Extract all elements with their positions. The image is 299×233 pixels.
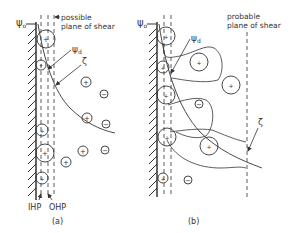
svg-text:+: + — [160, 64, 165, 71]
panel-a: ψo possible plane of shear ψd ζ + + + + … — [16, 13, 116, 226]
shear-plane-label-b-2: plane of shear — [227, 21, 282, 30]
shear-plane-label-a-2: plane of shear — [61, 22, 116, 31]
svg-text:−: − — [101, 91, 107, 99]
svg-text:+: + — [43, 36, 49, 44]
caption-a: (a) — [52, 217, 63, 226]
zeta-label-b: ζ — [258, 117, 263, 127]
panel-b: ψo probable plane of shear ψd ζ + + + + … — [137, 12, 282, 226]
svg-text:−: − — [103, 121, 109, 129]
double-layer-diagram: ψo possible plane of shear ψd ζ + + + + … — [0, 0, 299, 233]
psi-0-label-a: ψo — [16, 17, 27, 29]
svg-text:+: + — [164, 134, 169, 141]
svg-text:−: − — [185, 177, 191, 185]
ohp-label: OHP — [49, 203, 66, 212]
potential-curve-a — [38, 24, 115, 133]
ions-b: + + + + + + + − + − — [157, 27, 240, 185]
shear-plane-label-a: possible — [61, 13, 92, 22]
svg-text:+: + — [160, 175, 165, 182]
svg-text:+: + — [80, 148, 86, 156]
svg-text:+: + — [228, 82, 233, 89]
svg-text:+: + — [84, 115, 90, 123]
svg-text:+: + — [163, 33, 168, 40]
svg-text:+: + — [39, 175, 44, 182]
svg-text:+: + — [42, 150, 48, 158]
svg-text:+: + — [196, 59, 201, 66]
electrode-hatching-a — [28, 28, 36, 196]
svg-text:+: + — [163, 92, 168, 99]
svg-text:+: + — [39, 127, 44, 134]
ihp-label: IHP — [28, 203, 41, 212]
svg-text:−: − — [196, 101, 202, 109]
svg-text:+: + — [63, 159, 69, 167]
psi-d-label-b: ψd — [191, 33, 201, 44]
svg-text:+: + — [206, 143, 211, 150]
electrode-hatching-b — [149, 28, 157, 196]
svg-text:+: + — [83, 79, 89, 87]
zeta-label-a: ζ — [82, 56, 87, 66]
psi-0-label-b: ψo — [137, 17, 148, 29]
caption-b: (b) — [188, 217, 199, 226]
shear-plane-label-b: probable — [227, 12, 260, 21]
svg-text:+: + — [39, 62, 43, 68]
psi-d-label-a: ψd — [72, 44, 82, 55]
svg-text:−: − — [102, 147, 108, 155]
